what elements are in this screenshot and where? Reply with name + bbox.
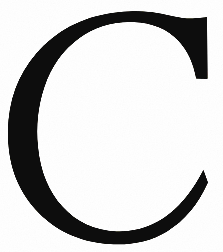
glyph-plate <box>0 0 223 252</box>
letter-c-glyph <box>0 0 223 252</box>
